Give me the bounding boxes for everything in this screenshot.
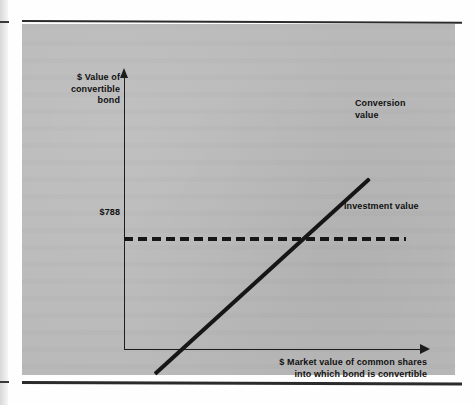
- y-axis-line: [124, 76, 125, 350]
- page-edge-rule-bottom: [0, 381, 9, 383]
- conversion-value-label: Conversion value: [355, 98, 435, 121]
- figure-rule-bottom: [22, 381, 462, 385]
- investment-value-line: [124, 237, 406, 241]
- y-axis-arrow-icon: [120, 68, 128, 78]
- figure-page: $ Value of convertible bond $788 Convers…: [0, 0, 475, 405]
- investment-value-label: Investment value: [344, 201, 454, 213]
- page-edge-rule-top: [0, 21, 9, 23]
- x-axis-line: [124, 349, 422, 350]
- page-edge-artifact: [0, 0, 8, 405]
- x-axis-arrow-icon: [420, 344, 430, 354]
- y-axis-title: $ Value of convertible bond: [50, 72, 120, 107]
- conversion-value-line: [154, 177, 371, 375]
- chart-panel: $ Value of convertible bond $788 Convers…: [22, 24, 455, 375]
- y-axis-tick-label: $788: [78, 207, 120, 219]
- x-axis-title: $ Market value of common shares into whi…: [272, 357, 427, 380]
